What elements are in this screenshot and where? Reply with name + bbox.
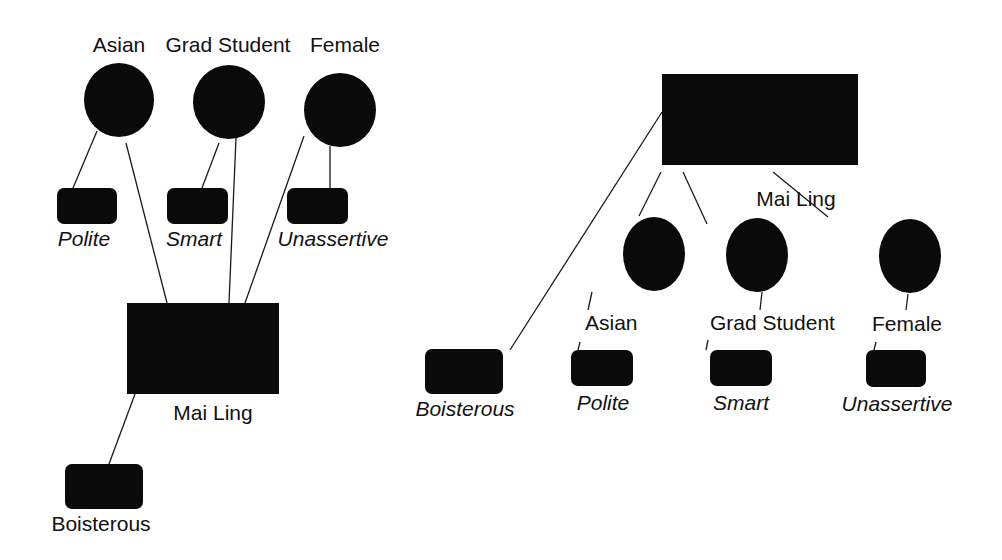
trait-node-smart (167, 188, 228, 224)
left-nodes: Mai LingAsianGrad StudentFemalePoliteSma… (51, 33, 388, 535)
trait-label-polite: Polite (58, 227, 111, 250)
category-label-grad-student: Grad Student (166, 33, 291, 56)
connector-line (588, 292, 592, 310)
connector-line (683, 172, 707, 224)
category-node-grad-student (193, 65, 265, 139)
trait-label-smart: Smart (713, 391, 770, 414)
category-node-grad-student (726, 218, 788, 292)
trait-node-boisterous (65, 464, 143, 509)
connector-line (229, 138, 236, 303)
trait-node-polite (571, 350, 633, 386)
trait-label-boisterous: Boisterous (415, 397, 515, 420)
connector-line (639, 172, 661, 216)
person-label: Mai Ling (173, 401, 252, 424)
diagram-canvas: Mai LingAsianGrad StudentFemalePoliteSma… (0, 0, 1002, 560)
right-nodes: Mai LingAsianGrad StudentFemaleBoisterou… (415, 74, 952, 420)
category-label-asian: Asian (585, 311, 638, 334)
connector-line (760, 292, 762, 310)
trait-label-smart: Smart (166, 227, 223, 250)
category-label-female: Female (872, 312, 942, 335)
trait-node-boisterous (425, 349, 503, 394)
category-node-asian (84, 63, 154, 137)
trait-label-polite: Polite (577, 391, 630, 414)
category-node-asian (623, 217, 685, 291)
connector-line (578, 342, 580, 350)
trait-node-smart (710, 350, 772, 386)
category-node-female (304, 73, 376, 147)
trait-node-polite (57, 188, 117, 224)
category-label-grad-student: Grad Student (710, 311, 835, 334)
category-label-female: Female (310, 33, 380, 56)
person-node (662, 74, 858, 165)
connector-line (126, 143, 167, 303)
category-label-asian: Asian (93, 33, 146, 56)
trait-node-unassertive (287, 188, 348, 224)
connector-line (874, 342, 876, 350)
connector-line (202, 143, 219, 188)
connector-line (73, 131, 97, 188)
trait-label-unassertive: Unassertive (278, 227, 389, 250)
right-diagram-person-to-category: Mai LingAsianGrad StudentFemaleBoisterou… (415, 74, 952, 420)
person-node (127, 303, 279, 394)
person-label: Mai Ling (756, 187, 835, 210)
connector-line (109, 394, 135, 464)
connector-line (706, 340, 708, 350)
left-diagram-category-to-person: Mai LingAsianGrad StudentFemalePoliteSma… (51, 33, 388, 535)
trait-node-unassertive (866, 350, 926, 387)
trait-label-unassertive: Unassertive (842, 392, 953, 415)
connector-line (906, 294, 908, 310)
trait-label-boisterous: Boisterous (51, 512, 150, 535)
category-node-female (879, 219, 941, 293)
